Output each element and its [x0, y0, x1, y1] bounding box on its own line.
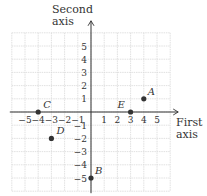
x-tick-label: 3 — [128, 115, 134, 125]
point-label-b: B — [94, 165, 102, 176]
x-axis-title-line2: axis — [176, 129, 202, 141]
y-tick-label: −5 — [74, 174, 88, 184]
y-tick-label: −4 — [74, 160, 88, 170]
y-tick-label: 2 — [81, 81, 87, 91]
y-axis-title: Second axis — [52, 4, 93, 28]
point-a — [141, 96, 146, 101]
x-tick-label: 2 — [115, 115, 121, 125]
point-label-c: C — [43, 99, 51, 110]
point-label-a: A — [147, 86, 155, 97]
point-b — [88, 175, 93, 180]
x-tick-label: 4 — [141, 115, 147, 125]
x-axis-title: First axis — [176, 117, 202, 141]
y-axis-title-line2: axis — [52, 16, 93, 28]
x-tick-label: −3 — [45, 115, 59, 125]
point-e — [128, 109, 133, 114]
x-tick-label: 5 — [154, 115, 160, 125]
y-tick-label: 3 — [81, 68, 87, 78]
y-tick-label: 1 — [81, 94, 87, 104]
y-tick-label: −3 — [74, 147, 88, 157]
point-label-d: D — [55, 125, 64, 136]
x-tick-label: −2 — [58, 115, 71, 125]
y-tick-label: 4 — [81, 55, 87, 65]
point-c — [36, 109, 41, 114]
x-tick-label: −5 — [18, 115, 32, 125]
y-tick-label: 5 — [81, 42, 87, 52]
point-label-e: E — [117, 99, 126, 110]
y-tick-label: −2 — [74, 134, 87, 144]
x-tick-label: 1 — [101, 115, 107, 125]
y-tick-label: −1 — [74, 121, 87, 131]
x-tick-label: −4 — [32, 115, 46, 125]
coordinate-plane: −5−4−3−2−11234554321−1−2−3−4−5ABCDE — [0, 0, 207, 196]
point-d — [49, 136, 54, 141]
